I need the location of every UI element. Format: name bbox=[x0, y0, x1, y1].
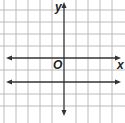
coordinate-plane: y x O bbox=[0, 0, 125, 123]
grid-lines bbox=[0, 0, 125, 123]
graph-canvas bbox=[0, 0, 125, 123]
x-axis-label: x bbox=[117, 59, 124, 71]
origin-label: O bbox=[53, 59, 62, 71]
y-axis-label: y bbox=[55, 1, 62, 13]
